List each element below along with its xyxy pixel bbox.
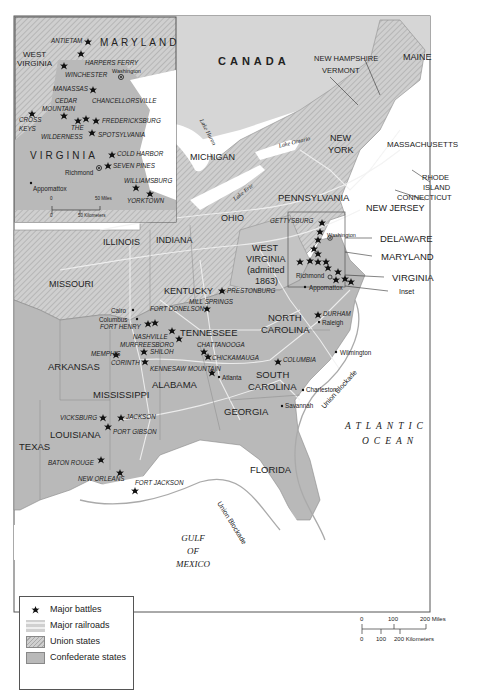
label-battle-fort-henry: FORT HENRY <box>100 324 141 330</box>
inset-scale-miles: 50 Miles <box>95 196 112 201</box>
scale-km-100: 100 <box>376 636 386 642</box>
label-alabama: ALABAMA <box>152 380 197 390</box>
union-hatch-swatch-icon <box>26 636 45 648</box>
label-maryland: MARYLAND <box>381 252 434 262</box>
legend-item-confederate: Confederate states <box>20 651 133 665</box>
label-ohio: OHIO <box>221 214 244 223</box>
label-massachusetts: MASSACHUSETTS <box>387 141 458 149</box>
label-battle-shiloh: SHILOH <box>150 349 173 355</box>
label-battle-gettysburg: GETTYSBURG <box>270 218 313 224</box>
legend-label: Confederate states <box>50 652 126 662</box>
label-missouri: MISSOURI <box>49 280 94 289</box>
inset-label-winchester: WINCHESTER <box>65 72 107 78</box>
inset-scale-zero-bottom: 0 <box>50 213 53 218</box>
inset-label-cedar: CEDAR <box>55 98 77 104</box>
inset-label-wilderness: WILDERNESS <box>41 134 83 140</box>
label-city-atlanta: Atlanta <box>222 375 242 381</box>
inset-label-washington: Washington <box>112 69 141 75</box>
label-illinois: ILLINOIS <box>103 238 140 247</box>
label-battle-vicksburg: VICKSBURG <box>60 415 97 421</box>
inset-label-keys: KEYS <box>19 126 36 132</box>
legend-item-railroads: Major railroads <box>20 619 133 633</box>
label-city-richmond: Richmond <box>296 273 324 279</box>
inset-label-cold-harbor: COLD HARBOR <box>117 151 163 157</box>
confederate-gray-swatch-icon <box>26 652 45 664</box>
label-battle-jackson: JACKSON <box>126 414 156 420</box>
inset-label-manassas: MANASSAS <box>53 86 88 92</box>
label-maine: MAINE <box>403 53 432 62</box>
legend-label: Major battles <box>50 604 102 614</box>
inset-label-antietam: ANTIETAM <box>51 38 82 44</box>
legend-item-union: Union states <box>20 635 133 649</box>
label-atlantic: ATLANTIC <box>345 422 428 432</box>
label-battle-memphis: MEMPHIS <box>91 351 120 357</box>
inset-label-spotsylvania: SPOTSYLVANIA <box>98 132 145 138</box>
label-battle-prestonburg: PRESTONBURG <box>227 288 276 294</box>
inset-label-fredericksburg: FREDERICKSBURG <box>102 118 161 124</box>
inset-label-the: THE <box>71 125 84 131</box>
inset-label-chancellorsville: CHANCELLORSVILLE <box>92 98 156 104</box>
label-connecticut: CONNECTICUT <box>397 194 452 202</box>
inset-label-maryland: MARYLAND <box>100 38 179 48</box>
label-battle-fort-jackson: FORT JACKSON <box>135 480 184 486</box>
label-battle-fort-donelson: FORT DONELSON <box>150 306 204 312</box>
label-rhode-island-2: ISLAND <box>423 184 450 192</box>
inset-label-virginia: VIRGINIA <box>30 151 98 161</box>
label-canada: CANADA <box>218 56 290 67</box>
label-louisiana: LOUISIANA <box>50 430 101 440</box>
label-west-virginia-4: 1863) <box>255 277 278 286</box>
label-mississippi: MISSISSIPPI <box>93 390 150 400</box>
label-battle-columbia: COLUMBIA <box>283 357 316 363</box>
label-new-hampshire: NEW HAMPSHIRE <box>314 55 378 63</box>
label-new-jersey: NEW JERSEY <box>366 204 425 213</box>
scale-km-0: 0 <box>360 636 363 642</box>
label-city-wilmington: Wilmington <box>340 350 371 356</box>
legend-item-battles: Major battles <box>20 603 133 617</box>
label-battle-chickamauga: CHICKAMAUGA <box>212 355 259 361</box>
label-south-carolina: SOUTH <box>256 370 289 380</box>
label-west-virginia: WEST <box>252 244 278 253</box>
label-indiana: INDIANA <box>156 236 193 245</box>
label-city-raleigh: Raleigh <box>322 320 343 326</box>
inset-label-west-virginia-2: VIRGINIA <box>17 60 52 68</box>
label-georgia: GEORGIA <box>224 407 268 417</box>
label-battle-new-orleans: NEW ORLEANS <box>78 476 125 482</box>
inset-label-seven-pines: SEVEN PINES <box>113 163 155 169</box>
inset-label-west-virginia: WEST <box>23 51 46 59</box>
inset-scale-zero-top: 0 <box>50 196 53 201</box>
label-ocean: OCEAN <box>362 437 418 447</box>
map-legend: Major battles Major railroads Union stat… <box>19 596 134 690</box>
label-vermont: VERMONT <box>322 67 360 75</box>
label-battle-nashville: NASHVILLE <box>133 334 168 340</box>
label-south-carolina-2: CAROLINA <box>248 382 297 392</box>
label-city-cairo: Cairo <box>111 308 126 314</box>
legend-label: Major railroads <box>50 620 110 630</box>
label-virginia: VIRGINIA <box>392 273 434 283</box>
label-city-charleston: Charleston <box>306 387 336 393</box>
inset-scale-km: 50 Kilometers <box>78 213 106 218</box>
label-delaware: DELAWARE <box>380 234 433 244</box>
label-arkansas: ARKANSAS <box>48 362 100 372</box>
inset-label-richmond: Richmond <box>65 170 93 176</box>
railroad-swatch-icon <box>26 620 45 632</box>
label-city-savannah: Savannah <box>285 403 313 409</box>
inset-label-cross: CROSS <box>19 117 41 123</box>
label-north-carolina: NORTH <box>268 313 302 323</box>
scale-miles-200: 200 Miles <box>420 616 446 622</box>
scale-km-200: 200 Kilometers <box>394 636 434 642</box>
label-west-virginia-3: (admitted <box>247 266 285 275</box>
inset-label-yorktown: YORKTOWN <box>127 198 164 204</box>
inset-label-harpers-ferry: HARPERS FERRY <box>85 60 138 66</box>
inset-label-williamsburg: WILLIAMSBURG <box>124 178 172 184</box>
scale-miles-100: 100 <box>388 616 398 622</box>
label-pennsylvania: PENNSYLVANIA <box>278 193 349 203</box>
main-scale-bar <box>362 624 426 634</box>
label-florida: FLORIDA <box>250 465 291 475</box>
label-new-york: NEW <box>330 134 351 143</box>
label-battle-durham: DURHAM <box>323 311 351 317</box>
inset-label-mountain: MOUNTAIN <box>42 106 75 112</box>
label-michigan: MICHIGAN <box>190 153 235 162</box>
label-battle-baton-rouge: BATON ROUGE <box>48 460 94 466</box>
label-city-appomattox: Appomattox <box>309 285 343 291</box>
inset-label-appomattox: Appomattox <box>33 186 67 192</box>
